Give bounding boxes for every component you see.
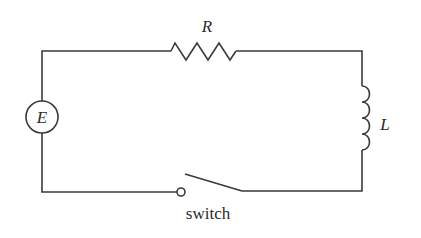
wire-top-left [42,51,171,101]
inductor-label: L [379,115,389,134]
switch-label: switch [186,204,231,223]
wire-right-bottom [242,150,362,191]
wire-top-right [236,51,362,86]
resistor-label: R [201,17,213,36]
rl-circuit-diagram: E R L switch [0,0,421,238]
wire-bottom-left [42,133,177,192]
switch-contact [177,188,185,196]
source-label: E [36,108,48,127]
switch-lever[interactable] [185,174,242,191]
inductor-symbol [362,86,370,150]
resistor-symbol [171,43,236,60]
